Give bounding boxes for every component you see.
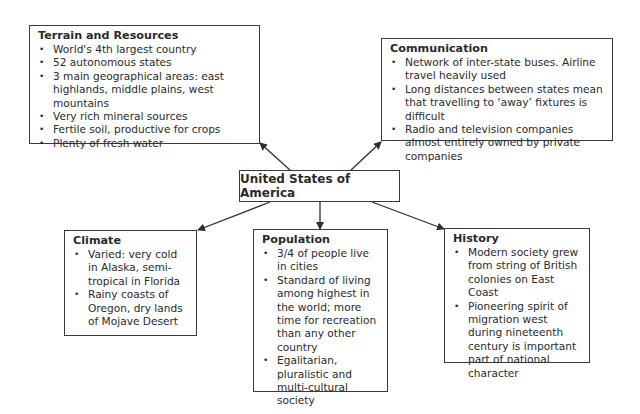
terrain-list: World's 4th largest country 52 autonomou… (38, 43, 253, 150)
arrow-to-communication (351, 142, 381, 170)
arrow-to-climate (198, 202, 270, 230)
list-item: Fertile soil, productive for crops (38, 123, 253, 136)
communication-heading: Communication (390, 42, 606, 56)
list-item: 3 main geographical areas: east highland… (38, 70, 253, 110)
central-topic-box: United States of America (239, 170, 400, 202)
arrow-to-terrain (260, 143, 290, 170)
population-list: 3/4 of people live in cities Standard of… (262, 247, 381, 408)
list-item: Standard of living among highest in the … (262, 274, 381, 354)
central-topic-title: United States of America (240, 172, 399, 200)
list-item: World's 4th largest country (38, 43, 253, 56)
climate-list: Varied: very cold in Alaska, semi-tropic… (73, 248, 190, 328)
list-item: 3/4 of people live in cities (262, 247, 381, 274)
list-item: Pioneering spirit of migration west duri… (453, 300, 583, 380)
list-item: Varied: very cold in Alaska, semi-tropic… (73, 248, 190, 288)
list-item: Network of inter-state buses. Airline tr… (390, 56, 606, 83)
terrain-heading: Terrain and Resources (38, 29, 253, 43)
terrain-box: Terrain and Resources World's 4th larges… (29, 25, 260, 144)
list-item: Rainy coasts of Oregon, dry lands of Moj… (73, 288, 190, 328)
history-heading: History (453, 232, 583, 246)
history-box: History Modern society grew from string … (444, 228, 590, 363)
list-item: Radio and television companies almost en… (390, 123, 606, 163)
population-box: Population 3/4 of people live in cities … (253, 229, 388, 392)
list-item: Plenty of fresh water (38, 137, 253, 150)
list-item: Long distances between states mean that … (390, 83, 606, 123)
list-item: Egalitarian, pluralistic and multi-cultu… (262, 354, 381, 408)
climate-box: Climate Varied: very cold in Alaska, sem… (64, 230, 197, 336)
communication-box: Communication Network of inter-state bus… (381, 38, 613, 141)
history-list: Modern society grew from string of Briti… (453, 246, 583, 380)
list-item: Very rich mineral sources (38, 110, 253, 123)
list-item: Modern society grew from string of Briti… (453, 246, 583, 300)
climate-heading: Climate (73, 234, 190, 248)
communication-list: Network of inter-state buses. Airline tr… (390, 56, 606, 163)
list-item: 52 autonomous states (38, 56, 253, 69)
population-heading: Population (262, 233, 381, 247)
arrow-to-history (372, 202, 444, 229)
